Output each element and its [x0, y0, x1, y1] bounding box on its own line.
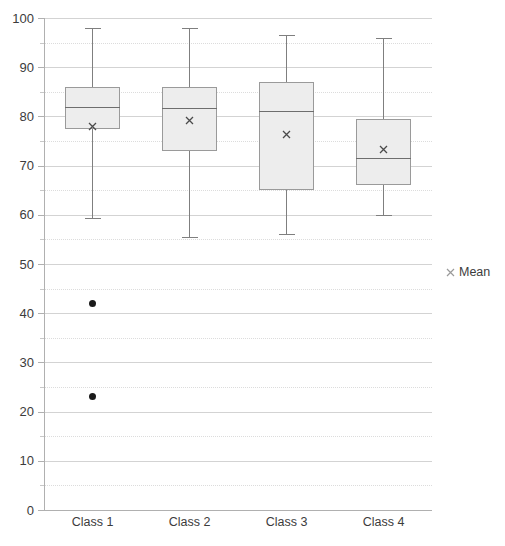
- median-line: [162, 108, 217, 109]
- legend: Mean: [446, 265, 490, 279]
- mean-marker-icon: [185, 116, 194, 125]
- x-axis-label-2: Class 2: [141, 514, 238, 530]
- y-axis-label: 70: [0, 159, 34, 172]
- legend-label-mean: Mean: [459, 265, 490, 279]
- whisker-upper: [92, 28, 93, 87]
- whisker-lower: [92, 129, 93, 219]
- y-axis-label: 60: [0, 208, 34, 221]
- y-axis-label: 0: [0, 504, 34, 517]
- whisker-lower: [189, 151, 190, 237]
- whisker-cap-upper: [279, 35, 295, 36]
- y-axis-label: 30: [0, 356, 34, 369]
- mean-marker-icon: [282, 130, 291, 139]
- x-axis-line: [44, 510, 432, 511]
- whisker-cap-lower: [85, 218, 101, 219]
- median-line: [356, 158, 411, 159]
- y-axis-label: 40: [0, 307, 34, 320]
- mean-marker-icon: [88, 122, 97, 131]
- whisker-upper: [286, 35, 287, 82]
- whisker-cap-lower: [376, 215, 392, 216]
- box-plot-chart: 0102030405060708090100 Class 1Class 2Cla…: [0, 0, 505, 546]
- whisker-lower: [286, 190, 287, 234]
- whisker-cap-lower: [182, 237, 198, 238]
- median-line: [65, 107, 120, 108]
- outlier-point: [89, 300, 96, 307]
- whisker-lower: [383, 185, 384, 215]
- box-plot-series: [238, 18, 335, 510]
- whisker-cap-upper: [85, 28, 101, 29]
- whisker-cap-lower: [279, 234, 295, 235]
- whisker-cap-upper: [376, 38, 392, 39]
- x-axis-label-4: Class 4: [335, 514, 432, 530]
- box-plot-series: [141, 18, 238, 510]
- whisker-cap-upper: [182, 28, 198, 29]
- box-plot-series: [335, 18, 432, 510]
- y-axis-label: 20: [0, 405, 34, 418]
- outlier-point: [89, 393, 96, 400]
- y-axis-label: 80: [0, 110, 34, 123]
- cross-marker-icon: [446, 268, 455, 277]
- whisker-upper: [189, 28, 190, 87]
- x-axis-label-3: Class 3: [238, 514, 335, 530]
- y-axis-label: 50: [0, 258, 34, 271]
- whisker-upper: [383, 38, 384, 119]
- median-line: [259, 111, 314, 112]
- y-axis-label: 90: [0, 61, 34, 74]
- mean-marker-icon: [379, 145, 388, 154]
- y-axis-label: 10: [0, 454, 34, 467]
- y-axis-label: 100: [0, 12, 34, 25]
- box-plot-series: [44, 18, 141, 510]
- x-axis-label-1: Class 1: [44, 514, 141, 530]
